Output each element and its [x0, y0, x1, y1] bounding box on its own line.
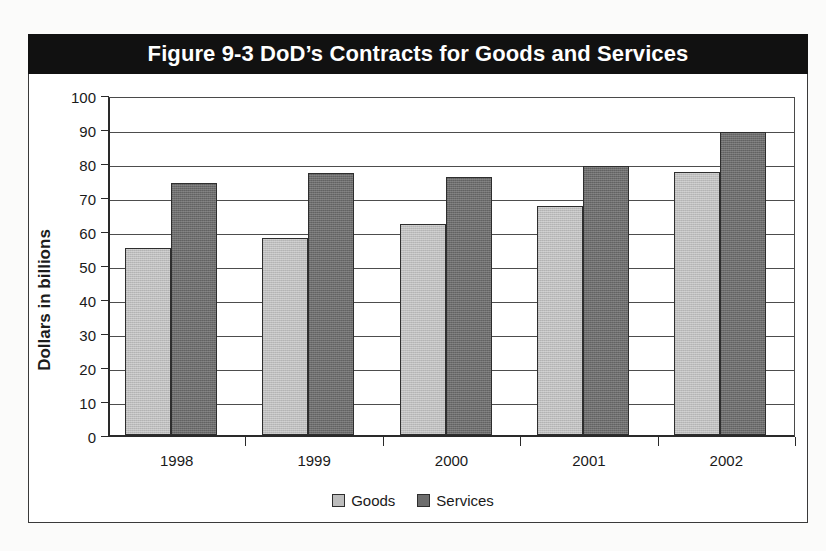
x-tick-mark [383, 437, 384, 446]
bar-goods-1998[interactable] [125, 248, 171, 435]
y-tick-label: 60 [52, 225, 96, 242]
bar-group [125, 98, 225, 435]
x-tick-label: 2001 [529, 452, 649, 469]
x-tick-mark [245, 437, 246, 446]
bar-services-2002[interactable] [720, 132, 766, 435]
legend-item-services[interactable]: Services [417, 492, 494, 509]
x-tick-label: 2002 [666, 452, 786, 469]
legend-swatch-services [417, 494, 430, 507]
figure-title-bar: Figure 9-3 DoD’s Contracts for Goods and… [28, 34, 808, 74]
bar-goods-2001[interactable] [537, 206, 583, 436]
legend-item-goods[interactable]: Goods [332, 492, 395, 509]
chart-legend: GoodsServices [0, 492, 826, 509]
bar-group [400, 98, 500, 435]
legend-swatch-goods [332, 494, 345, 507]
y-tick-label: 10 [52, 395, 96, 412]
bar-services-1999[interactable] [308, 173, 354, 435]
x-tick-mark [658, 437, 659, 446]
bar-goods-2000[interactable] [400, 224, 446, 435]
figure-title: Figure 9-3 DoD’s Contracts for Goods and… [148, 41, 689, 67]
scanned-page: Figure 9-3 DoD’s Contracts for Goods and… [0, 0, 826, 551]
bar-services-1998[interactable] [171, 183, 217, 435]
x-tick-label: 2000 [392, 452, 512, 469]
y-tick-label: 40 [52, 293, 96, 310]
y-tick-label: 100 [52, 89, 96, 106]
x-tick-mark [520, 437, 521, 446]
y-tick-label: 0 [52, 429, 96, 446]
y-tick-label: 80 [52, 157, 96, 174]
x-tick-label: 1999 [254, 452, 374, 469]
bar-services-2000[interactable] [446, 177, 492, 435]
bar-goods-2002[interactable] [674, 172, 720, 436]
y-tick-label: 50 [52, 259, 96, 276]
bar-group [262, 98, 362, 435]
bar-group [537, 98, 637, 435]
y-tick-label: 20 [52, 361, 96, 378]
plot-area [108, 97, 795, 437]
legend-label: Goods [351, 492, 395, 509]
y-tick-label: 90 [52, 123, 96, 140]
bar-group [674, 98, 774, 435]
y-tick-label: 30 [52, 327, 96, 344]
y-tick-label: 70 [52, 191, 96, 208]
bar-goods-1999[interactable] [262, 238, 308, 435]
legend-label: Services [436, 492, 494, 509]
x-tick-label: 1998 [117, 452, 237, 469]
x-tick-mark [795, 437, 796, 446]
bar-services-2001[interactable] [583, 166, 629, 435]
